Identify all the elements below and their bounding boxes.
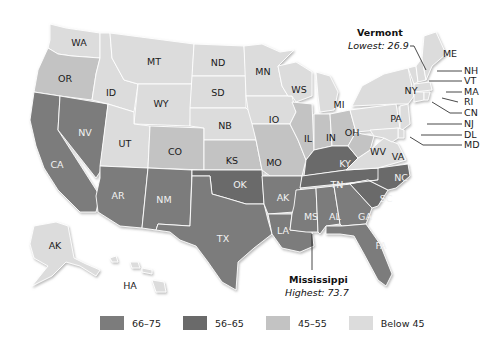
legend-swatch	[266, 316, 290, 330]
label-KY: KY	[339, 158, 351, 169]
legend-swatch	[349, 316, 373, 330]
vermont-annotation-value: Lowest: 26.9	[348, 40, 409, 51]
label-MN: MN	[255, 66, 270, 77]
label-NV: NV	[78, 127, 92, 138]
label-FA: FA	[375, 240, 387, 251]
label-OR: OR	[58, 73, 72, 84]
label-LA: LA	[277, 225, 290, 236]
label-OH: OH	[345, 127, 360, 138]
label-VA: VA	[392, 151, 405, 162]
label-VT: VT	[464, 75, 476, 86]
vermont-annotation-title: Vermont	[357, 27, 403, 38]
label-MI: MI	[334, 99, 345, 110]
us-choropleth-map: WA OR CA NV ID MT WY UT AR CO NM ND SD N…	[0, 0, 503, 349]
label-ND: ND	[211, 57, 225, 68]
legend: 66–75 56–65 45–55 Below 45	[100, 315, 447, 331]
label-NC: NC	[394, 172, 408, 183]
label-UT: UT	[119, 138, 132, 149]
label-AR: AK	[277, 192, 290, 203]
label-HA: HA	[123, 280, 137, 291]
label-OK: OK	[233, 179, 247, 190]
legend-item-66-75: 66–75	[100, 316, 161, 330]
mississippi-annotation-title: Mississippi	[289, 274, 348, 285]
label-TX: TX	[216, 233, 230, 244]
legend-item-below-45: Below 45	[349, 316, 425, 330]
legend-label: 45–55	[298, 318, 327, 329]
label-WA: WA	[71, 37, 87, 48]
label-MT: MT	[147, 56, 161, 67]
legend-swatch	[183, 316, 207, 330]
label-PA: PA	[390, 113, 402, 124]
mississippi-annotation-value: Highest: 73.7	[285, 287, 349, 298]
label-ID: ID	[106, 87, 116, 98]
label-TN: TN	[330, 179, 344, 190]
label-SD: SD	[211, 87, 224, 98]
label-MD: MD	[464, 139, 480, 150]
legend-swatch	[100, 316, 124, 330]
label-CO: CO	[168, 146, 182, 157]
label-CN: CN	[464, 107, 478, 118]
state-DL	[398, 128, 404, 138]
label-NY: NY	[405, 85, 418, 96]
label-MS: MS	[304, 211, 318, 222]
label-NJ: NJ	[464, 118, 474, 129]
label-RI: RI	[464, 96, 473, 107]
label-AK: AK	[49, 240, 62, 251]
label-IN: IN	[326, 132, 336, 143]
state-RI	[424, 92, 430, 100]
label-WY: WY	[153, 98, 168, 109]
legend-item-56-65: 56–65	[183, 316, 244, 330]
label-IL: IL	[304, 133, 313, 144]
label-IO: IO	[269, 114, 279, 125]
label-NM: NM	[156, 194, 171, 205]
label-ME: ME	[443, 48, 457, 59]
state-HA-1	[110, 256, 118, 262]
label-MO: MO	[266, 157, 282, 168]
legend-label: 66–75	[132, 318, 161, 329]
label-NB: NB	[218, 120, 232, 131]
label-AL: AL	[329, 211, 341, 222]
legend-item-45-55: 45–55	[266, 316, 327, 330]
label-GA: GA	[358, 211, 372, 222]
legend-label: 56–65	[215, 318, 244, 329]
label-WV: WV	[370, 146, 386, 157]
state-HA-4	[152, 280, 166, 292]
label-WS: WS	[291, 84, 306, 95]
state-HA-2	[130, 262, 140, 268]
label-AZ: AR	[111, 190, 124, 201]
state-HA-3	[142, 268, 152, 274]
state-AK	[30, 222, 100, 286]
legend-label: Below 45	[381, 318, 425, 329]
label-SC: SC	[380, 193, 393, 204]
label-KS: KS	[226, 155, 238, 166]
label-CA: CA	[50, 159, 64, 170]
